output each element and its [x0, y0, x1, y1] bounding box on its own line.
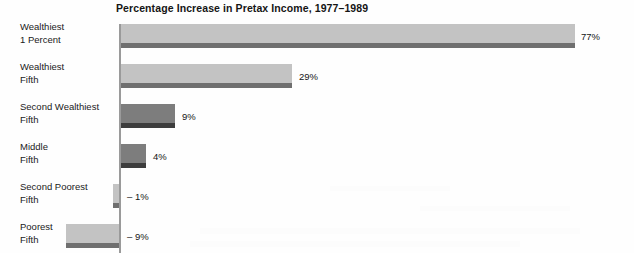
category-label-line1: Wealthiest: [20, 21, 64, 32]
chart-title: Percentage Increase in Pretax Income, 19…: [116, 2, 368, 14]
bar-shadow: [66, 243, 119, 248]
chart-row: Second Poorest Fifth – 1%: [0, 180, 634, 218]
chart-page: Percentage Increase in Pretax Income, 19…: [0, 0, 634, 253]
bar-value-label: 9%: [182, 111, 196, 122]
category-label-line1: Second Poorest: [20, 181, 88, 192]
category-label-line2: Fifth: [20, 153, 116, 166]
zero-axis-line: [119, 24, 121, 253]
bar-value-label: – 1%: [127, 191, 149, 202]
category-label-line1: Wealthiest: [20, 61, 64, 72]
bar-face: [113, 184, 119, 203]
bar-value-label: – 9%: [127, 231, 149, 242]
bar-face: [121, 144, 146, 163]
category-label-line2: Fifth: [20, 73, 116, 86]
bar-face: [121, 24, 575, 43]
category-label: Middle Fifth: [20, 140, 116, 166]
category-label: Wealthiest Fifth: [20, 60, 116, 86]
chart-row: Middle Fifth 4%: [0, 140, 634, 178]
bar-face: [66, 224, 119, 243]
chart-row: Wealthiest 1 Percent 77%: [0, 20, 634, 58]
category-label-line1: Middle: [20, 141, 48, 152]
bar[interactable]: [121, 24, 575, 48]
bar-shadow: [121, 43, 575, 48]
category-label: Second Poorest Fifth: [20, 180, 116, 206]
chart-plot-area: Wealthiest 1 Percent 77% Wealthiest Fift…: [0, 20, 634, 253]
bar[interactable]: [121, 144, 146, 168]
bar[interactable]: [66, 224, 119, 248]
chart-row: Wealthiest Fifth 29%: [0, 60, 634, 98]
category-label-line2: Fifth: [20, 113, 116, 126]
bar-shadow: [121, 83, 292, 88]
category-label-line1: Second Wealthiest: [20, 101, 99, 112]
bar-value-label: 4%: [153, 151, 167, 162]
bar[interactable]: [121, 104, 175, 128]
bar-face: [121, 104, 175, 123]
category-label-line2: 1 Percent: [20, 33, 116, 46]
bar-face: [121, 64, 292, 83]
bar-shadow: [113, 203, 119, 208]
bar[interactable]: [113, 184, 119, 208]
chart-row: Poorest Fifth – 9%: [0, 220, 634, 253]
category-label: Wealthiest 1 Percent: [20, 20, 116, 46]
bar-shadow: [121, 163, 146, 168]
category-label-line2: Fifth: [20, 193, 116, 206]
bar-value-label: 77%: [581, 31, 600, 42]
chart-row: Second Wealthiest Fifth 9%: [0, 100, 634, 138]
bar-shadow: [121, 123, 175, 128]
bar-value-label: 29%: [299, 71, 318, 82]
category-label: Second Wealthiest Fifth: [20, 100, 116, 126]
bar[interactable]: [121, 64, 292, 88]
category-label-line1: Poorest: [20, 221, 53, 232]
